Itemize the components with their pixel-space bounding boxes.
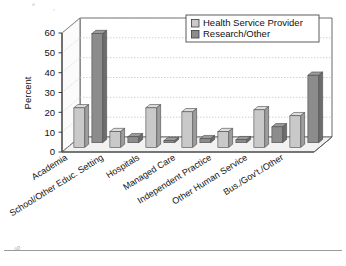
legend-label-health-service-provider: Health Service Provider (203, 17, 303, 28)
bar-1-6 (308, 72, 323, 143)
bar-0-1 (110, 128, 125, 147)
scan-speck (32, 3, 35, 6)
scan-speck (53, 9, 55, 11)
bar-0-2 (146, 105, 161, 148)
x-category-label: Bus./Gov't./Other (221, 152, 285, 197)
bottom-divider-rule (4, 250, 342, 251)
bar-1-3 (200, 135, 215, 142)
y-axis-title: Percent (22, 76, 33, 109)
grouped-bar-chart-3d: 0 10 20 30 40 50 60 Percent AcademiaScho… (0, 0, 346, 266)
bar-0-3 (182, 109, 197, 148)
y-tick-label-40: 40 (44, 67, 55, 78)
legend-swatch-health-service-provider (192, 20, 200, 28)
bar-0-0 (74, 105, 89, 148)
bar-1-5 (272, 124, 287, 143)
legend-swatch-research-other (192, 31, 200, 39)
y-tick-label-60: 60 (44, 27, 55, 38)
y-tick-label-20: 20 (44, 107, 55, 118)
y-tick-labels: 0 10 20 30 40 50 60 (44, 27, 55, 157)
bar-0-5 (254, 107, 269, 148)
bar-1-0 (92, 30, 107, 142)
y-tick-label-10: 10 (44, 127, 55, 138)
category-labels: AcademiaSchool/Other Educ. SettingHospit… (8, 152, 285, 218)
bar-0-4 (218, 128, 233, 147)
y-tick-label-50: 50 (44, 47, 55, 58)
legend-label-research-other: Research/Other (203, 28, 270, 39)
bar-1-1 (128, 133, 143, 142)
chart-legend[interactable]: Health Service Provider Research/Other (186, 15, 319, 42)
chart-figure: 0 10 20 30 40 50 60 Percent AcademiaScho… (0, 0, 346, 266)
y-tick-label-0: 0 (50, 146, 55, 157)
y-tick-label-30: 30 (44, 87, 55, 98)
bar-0-6 (290, 112, 305, 147)
